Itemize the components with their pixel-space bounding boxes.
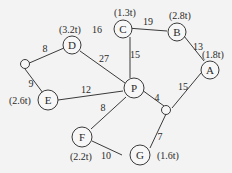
node-label-C: C [119,23,126,35]
capacity-F: (2.2t) [70,151,92,163]
capacity-G: (1.6t) [157,150,179,162]
node-label-G: G [136,149,144,161]
capacity-E: (2.6t) [9,95,31,107]
capacity-B: (2.8t) [169,10,191,22]
node-label-A: A [206,64,214,76]
node-B: B [168,23,186,41]
node-label-D: D [68,39,76,51]
capacity-D: (3.2t) [59,24,81,36]
node-label-E: E [45,94,52,106]
graph-svg: 8 9 27 16 19 15 13 15 4 12 8 10 7 D C B … [0,0,232,173]
edge-C-B [127,28,167,31]
weight-J1-D: 8 [43,43,48,54]
node-G: G [130,145,150,165]
node-E: E [38,90,58,110]
graph-diagram: 8 9 27 16 19 15 13 15 4 12 8 10 7 D C B … [0,0,232,173]
capacity-C: (1.3t) [114,7,136,19]
weight-P-J2: 4 [155,92,160,103]
weight-P-F: 8 [101,102,106,113]
weight-J1-E: 9 [29,78,34,89]
node-label-P: P [131,82,137,94]
node-C: C [114,20,132,38]
node-label-F: F [79,131,85,143]
node-P: P [124,78,144,98]
weight-E-P: 12 [81,84,91,95]
weight-D-P: 27 [99,53,109,64]
edge-P-F [91,97,126,129]
junction-node-right [162,106,171,115]
node-label-B: B [173,26,180,38]
edge-P-J2 [142,90,164,106]
node-D: D [63,36,81,54]
weight-F-G: 10 [101,150,111,161]
node-A: A [201,61,219,79]
node-F: F [72,127,92,147]
junction-node-left [21,60,30,69]
capacity-A: (1.8t) [202,49,224,61]
weight-D-C: 16 [92,24,102,35]
weight-C-B: 19 [143,16,153,27]
weight-C-P: 15 [130,49,140,60]
weight-A-J2: 15 [178,81,188,92]
weight-J2-G: 7 [158,131,163,142]
